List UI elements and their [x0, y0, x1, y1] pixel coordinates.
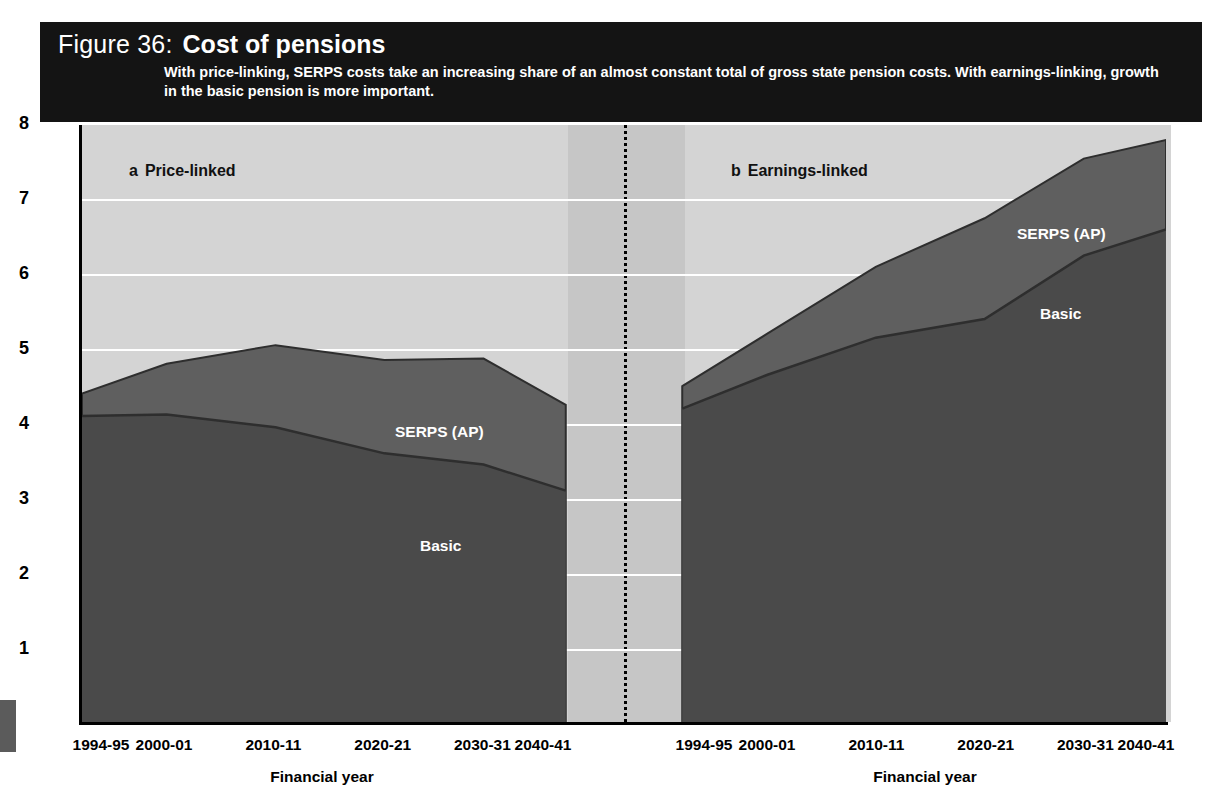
figure-number: Figure 36: — [58, 30, 173, 59]
series-areas — [82, 125, 1166, 722]
y-tick-1: 1 — [0, 638, 29, 659]
y-tick-3: 3 — [0, 488, 29, 509]
x-tick-p0-2000-01: 2000-01 — [136, 736, 193, 754]
figure-subtitle: With price-linking, SERPS costs take an … — [164, 63, 1174, 101]
series-label-basic-earnings-linked: Basic — [1040, 305, 1081, 323]
x-axis-title-left: Financial year — [270, 768, 373, 786]
x-tick-p1-1994-95: 1994-95 — [676, 736, 733, 754]
x-tick-p0-2040-41: 2040-41 — [515, 736, 572, 754]
plot-area: aPrice-linked bEarnings-linked SERPS (AP… — [79, 125, 1168, 725]
x-tick-p1-2020-21: 2020-21 — [957, 736, 1014, 754]
panel-name-a: Price-linked — [145, 162, 236, 179]
panel-letter-a: a — [129, 162, 138, 179]
x-tick-p1-2040-41: 2040-41 — [1118, 736, 1175, 754]
figure-title: Cost of pensions — [183, 30, 386, 59]
figure-header: Figure 36: Cost of pensions With price-l… — [40, 22, 1202, 122]
panel-caption-b: bEarnings-linked — [731, 162, 868, 180]
x-tick-p0-1994-95: 1994-95 — [73, 736, 130, 754]
y-tick-5: 5 — [0, 338, 29, 359]
panel-caption-a: aPrice-linked — [129, 162, 236, 180]
x-tick-p1-2010-11: 2010-11 — [848, 736, 904, 754]
series-label-serps-earnings-linked: SERPS (AP) — [1017, 225, 1106, 243]
x-tick-p0-2020-21: 2020-21 — [354, 736, 411, 754]
y-tick-6: 6 — [0, 263, 29, 284]
series-label-serps-price-linked: SERPS (AP) — [395, 423, 484, 441]
series-label-basic-price-linked: Basic — [420, 537, 461, 555]
x-tick-p0-2010-11: 2010-11 — [245, 736, 301, 754]
figure-header-titleline: Figure 36: Cost of pensions — [58, 30, 1186, 59]
panel-letter-b: b — [731, 162, 741, 179]
y-tick-7: 7 — [0, 188, 29, 209]
x-tick-p0-2030-31: 2030-31 — [454, 736, 511, 754]
x-axis-title-right: Financial year — [873, 768, 976, 786]
y-tick-2: 2 — [0, 563, 29, 584]
y-tick-4: 4 — [0, 413, 29, 434]
panel-name-b: Earnings-linked — [748, 162, 868, 179]
x-tick-p1-2000-01: 2000-01 — [739, 736, 796, 754]
page-edge-marker — [0, 700, 16, 752]
x-tick-p1-2030-31: 2030-31 — [1057, 736, 1114, 754]
y-tick-8: 8 — [0, 113, 29, 134]
figure-root: Figure 36: Cost of pensions With price-l… — [0, 0, 1218, 798]
